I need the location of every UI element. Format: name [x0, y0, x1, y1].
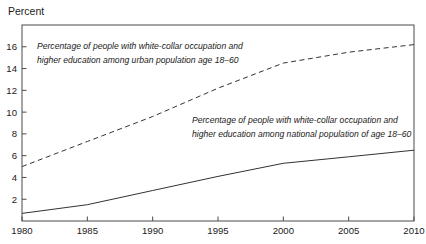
y-tick-label: 12 [6, 85, 17, 96]
x-tick-label: 2005 [338, 225, 359, 236]
x-tick-label: 1985 [77, 225, 98, 236]
y-tick-label: 14 [6, 63, 17, 74]
y-tick-label: 6 [12, 150, 17, 161]
urban-series-annotation: Percentage of people with white-collar o… [37, 40, 243, 67]
national-series-line [22, 150, 414, 213]
x-tick-label: 1995 [207, 225, 228, 236]
y-tick-label: 16 [6, 41, 17, 52]
urban-annotation-line1: Percentage of people with white-collar o… [37, 40, 243, 54]
y-tick-label: 4 [12, 172, 18, 183]
urban-annotation-line2: higher education among urban population … [37, 54, 243, 68]
x-tick-label: 1980 [11, 225, 32, 236]
x-tick-label: 1990 [142, 225, 163, 236]
x-tick-label: 2010 [403, 225, 424, 236]
y-tick-label: 8 [12, 128, 17, 139]
national-annotation-line1: Percentage of people with white-collar o… [192, 114, 411, 128]
y-tick-label: 10 [6, 107, 17, 118]
y-tick-label: 2 [12, 194, 17, 205]
national-annotation-line2: higher education among national populati… [192, 128, 411, 142]
national-series-annotation: Percentage of people with white-collar o… [192, 114, 411, 141]
x-tick-label: 2000 [273, 225, 294, 236]
line-chart: Percent 24681012141619801985199019952000… [0, 0, 426, 244]
